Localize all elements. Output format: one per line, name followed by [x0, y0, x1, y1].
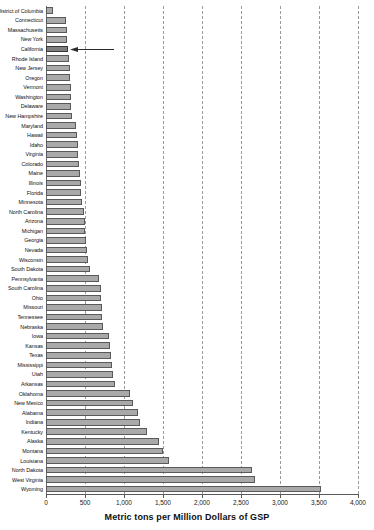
chart-row[interactable]: Illinois	[46, 178, 358, 188]
chart-row[interactable]: Ohio	[46, 293, 358, 303]
chart-row[interactable]: Oregon	[46, 73, 358, 83]
chart-row[interactable]: Idaho	[46, 140, 358, 150]
bar[interactable]	[46, 237, 86, 244]
bar[interactable]	[46, 46, 68, 53]
chart-row[interactable]: New Hampshire	[46, 111, 358, 121]
chart-row[interactable]: Nevada	[46, 245, 358, 255]
bar[interactable]	[46, 457, 169, 464]
bar[interactable]	[46, 132, 77, 139]
bar[interactable]	[46, 27, 67, 34]
chart-row[interactable]: Maine	[46, 169, 358, 179]
chart-row[interactable]: Connecticut	[46, 16, 358, 26]
chart-row[interactable]: New Mexico	[46, 398, 358, 408]
chart-row[interactable]: South Dakota	[46, 264, 358, 274]
chart-row[interactable]: Massachusetts	[46, 25, 358, 35]
bar[interactable]	[46, 428, 147, 435]
chart-row[interactable]: New Jersey	[46, 63, 358, 73]
bar[interactable]	[46, 448, 163, 455]
chart-row[interactable]: Oklahoma	[46, 389, 358, 399]
chart-row[interactable]: Kentucky	[46, 427, 358, 437]
bar[interactable]	[46, 103, 71, 110]
bar[interactable]	[46, 295, 101, 302]
bar[interactable]	[46, 228, 85, 235]
bar[interactable]	[46, 362, 112, 369]
bar[interactable]	[46, 208, 84, 215]
bar[interactable]	[46, 170, 80, 177]
chart-row[interactable]: Utah	[46, 370, 358, 380]
chart-row[interactable]: Kansas	[46, 341, 358, 351]
bar[interactable]	[46, 141, 78, 148]
chart-row[interactable]: North Dakota	[46, 465, 358, 475]
bar[interactable]	[46, 323, 103, 330]
bar[interactable]	[46, 304, 102, 311]
chart-row[interactable]: Texas	[46, 350, 358, 360]
bar[interactable]	[46, 247, 87, 254]
chart-row[interactable]: Wyoming	[46, 484, 358, 494]
chart-row[interactable]: Nebraska	[46, 322, 358, 332]
bar[interactable]	[46, 180, 81, 187]
chart-row[interactable]: Montana	[46, 446, 358, 456]
bar[interactable]	[46, 84, 71, 91]
bar[interactable]	[46, 371, 113, 378]
bar[interactable]	[46, 467, 252, 474]
chart-row[interactable]: North Carolina	[46, 207, 358, 217]
chart-row[interactable]: Louisiana	[46, 456, 358, 466]
bar[interactable]	[46, 285, 101, 292]
chart-row[interactable]: Georgia	[46, 236, 358, 246]
bar[interactable]	[46, 199, 82, 206]
chart-row[interactable]: Minnesota	[46, 197, 358, 207]
chart-row[interactable]: Pennsylvania	[46, 274, 358, 284]
bar[interactable]	[46, 390, 130, 397]
chart-row[interactable]: Alabama	[46, 408, 358, 418]
bar[interactable]	[46, 476, 255, 483]
bar[interactable]	[46, 333, 109, 340]
bar[interactable]	[46, 381, 115, 388]
chart-row[interactable]: South Carolina	[46, 283, 358, 293]
chart-row[interactable]: Delaware	[46, 102, 358, 112]
chart-row[interactable]: Mississippi	[46, 360, 358, 370]
chart-row[interactable]: Hawaii	[46, 130, 358, 140]
bar[interactable]	[46, 189, 81, 196]
bar[interactable]	[46, 151, 78, 158]
chart-row[interactable]: Virginia	[46, 150, 358, 160]
bar[interactable]	[46, 74, 70, 81]
bar[interactable]	[46, 94, 71, 101]
bar[interactable]	[46, 161, 79, 168]
bar[interactable]	[46, 409, 138, 416]
bar[interactable]	[46, 17, 66, 24]
bar[interactable]	[46, 113, 72, 120]
bar[interactable]	[46, 419, 140, 426]
bar[interactable]	[46, 438, 159, 445]
chart-row[interactable]: Tennessee	[46, 312, 358, 322]
bar[interactable]	[46, 7, 53, 14]
bar[interactable]	[46, 65, 70, 72]
chart-row[interactable]: Washington	[46, 92, 358, 102]
chart-row[interactable]: New York	[46, 35, 358, 45]
chart-row[interactable]: Iowa	[46, 331, 358, 341]
bar[interactable]	[46, 266, 90, 273]
bar[interactable]	[46, 342, 110, 349]
bar[interactable]	[46, 218, 85, 225]
bar[interactable]	[46, 36, 67, 43]
bar[interactable]	[46, 122, 76, 129]
chart-row[interactable]: Indiana	[46, 417, 358, 427]
chart-row[interactable]: District of Columbia	[46, 6, 358, 16]
chart-row[interactable]: Rhode Island	[46, 54, 358, 64]
bar[interactable]	[46, 352, 111, 359]
bar[interactable]	[46, 275, 99, 282]
chart-row[interactable]: Arizona	[46, 217, 358, 227]
chart-row[interactable]: Vermont	[46, 83, 358, 93]
chart-row[interactable]: West Virginia	[46, 475, 358, 485]
bar[interactable]	[46, 314, 102, 321]
chart-row[interactable]: Missouri	[46, 303, 358, 313]
bar[interactable]	[46, 486, 321, 493]
bar[interactable]	[46, 400, 133, 407]
chart-row[interactable]: Maryland	[46, 121, 358, 131]
chart-row[interactable]: Arkansas	[46, 379, 358, 389]
chart-row[interactable]: Michigan	[46, 226, 358, 236]
bar[interactable]	[46, 55, 69, 62]
chart-row[interactable]: Alaska	[46, 437, 358, 447]
chart-row[interactable]: Colorado	[46, 159, 358, 169]
chart-row[interactable]: Florida	[46, 188, 358, 198]
chart-row[interactable]: Wisconsin	[46, 255, 358, 265]
